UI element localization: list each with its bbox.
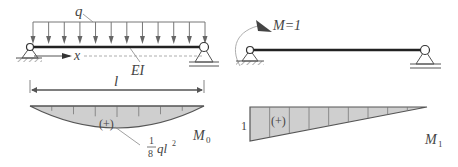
beam-diagrams: q x EI l (+) 1 8 ql 2 [0, 0, 458, 167]
span-label: l [114, 73, 118, 89]
load-arrow-head [77, 36, 82, 44]
load-arrow-head [187, 36, 192, 44]
svg-text:1: 1 [149, 135, 154, 146]
stiffness-label: EI [130, 63, 146, 78]
load-arrow-head [140, 36, 145, 44]
svg-text:8: 8 [148, 148, 153, 159]
load-arrow-head [93, 36, 98, 44]
svg-text:ql: ql [157, 141, 168, 156]
m0-sign: (+) [99, 117, 114, 131]
svg-text:2: 2 [172, 139, 176, 148]
moment-diagram-m0 [30, 106, 204, 128]
m1-left-value: 1 [241, 119, 247, 133]
load-label: q [75, 3, 83, 19]
peak-leader [115, 127, 140, 145]
load-arrow-head [46, 36, 51, 44]
svg-text:0: 0 [206, 135, 211, 145]
distributed-load [31, 22, 208, 44]
m1-label: M 1 [424, 132, 443, 149]
load-arrow-head [171, 36, 176, 44]
svg-text:M: M [424, 132, 438, 147]
applied-moment-label: M=1 [272, 18, 301, 33]
axis-label: x [73, 48, 81, 63]
peak-value-label: 1 8 ql 2 [147, 135, 176, 159]
load-arrow-head [31, 36, 36, 44]
load-leader [83, 14, 93, 22]
load-arrow-head [62, 36, 67, 44]
svg-text:1: 1 [438, 139, 443, 149]
m0-label: M 0 [192, 128, 211, 145]
ei-leader [130, 48, 140, 62]
svg-text:M: M [192, 128, 206, 143]
load-arrow-head [124, 36, 129, 44]
m1-sign: (+) [271, 114, 286, 128]
x-axis-arrowhead [62, 53, 72, 59]
load-arrow-head [156, 36, 161, 44]
load-arrow-head [109, 36, 114, 44]
